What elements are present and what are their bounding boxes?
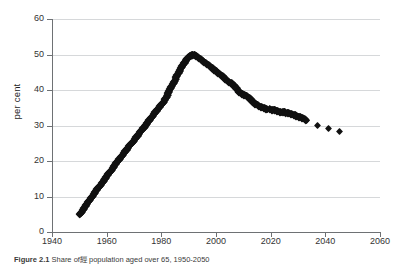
y-axis-tick-label: 20 [0,156,44,165]
y-axis-tick-label: 50 [0,50,44,59]
y-axis-tick-label: 60 [0,14,44,23]
y-axis-tick-label: 40 [0,85,44,94]
figure-caption-text: Share of經 population aged over 65, 1950-… [52,256,210,264]
x-axis-tick-label: 1940 [32,236,72,246]
x-axis-tick-label: 2000 [196,236,236,246]
x-axis-tick-label: 1960 [87,236,127,246]
chart-plot-area: 0102030405060 19401960198020002020204020… [0,0,404,246]
y-axis-tick-label: 10 [0,192,44,201]
gridline [52,90,380,91]
figure-caption: Figure 2.1 Share of經 population aged ove… [14,256,400,264]
gridline [52,55,380,56]
gridline [52,161,380,162]
y-axis-title: per cent [11,62,22,142]
x-axis-tick-label: 2040 [305,236,345,246]
gridline [52,19,380,20]
figure-caption-label: Figure 2.1 [14,256,49,264]
x-axis-tick-label: 2020 [251,236,291,246]
gridline [52,197,380,198]
x-axis-tick-label: 2060 [360,236,400,246]
y-axis-tick-label: 30 [0,121,44,130]
x-axis-tick-label: 1980 [141,236,181,246]
data-point-marker [314,122,321,129]
y-axis-tick-label: 0 [0,227,44,236]
y-axis-line [52,19,53,233]
data-point-marker [335,128,342,135]
figure-container: 0102030405060 19401960198020002020204020… [0,0,404,264]
